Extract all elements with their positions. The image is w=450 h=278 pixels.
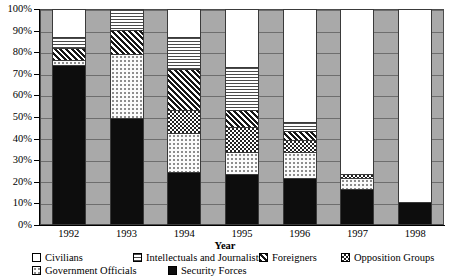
- legend-item-government[interactable]: Government Officials: [32, 265, 137, 276]
- y-tick-mark: [34, 225, 39, 226]
- legend-swatch-government-icon: [32, 266, 41, 275]
- legend-label: Intellectuals and Journalists: [146, 252, 263, 263]
- legend-item-civilians[interactable]: Civilians: [32, 252, 83, 263]
- bar-segment-government[interactable]: [111, 55, 143, 119]
- legend-item-security[interactable]: Security Forces: [168, 265, 247, 276]
- x-axis-line: [39, 225, 445, 226]
- bar-segment-civilians[interactable]: [226, 10, 258, 68]
- x-tick-label-1993: 1993: [97, 228, 157, 239]
- y-tick-mark: [34, 203, 39, 204]
- bar-segment-opposition[interactable]: [226, 128, 258, 154]
- bar-1996[interactable]: [283, 9, 317, 225]
- y-tick-mark: [34, 160, 39, 161]
- bar-segment-security[interactable]: [111, 119, 143, 224]
- legend-swatch-intellectuals-icon: [133, 253, 142, 262]
- bar-segment-government[interactable]: [226, 153, 258, 174]
- y-tick-mark: [34, 117, 39, 118]
- bar-segment-foreigners[interactable]: [284, 132, 316, 141]
- y-tick-label: 90%: [13, 26, 32, 36]
- bar-segment-civilians[interactable]: [341, 10, 373, 175]
- legend-label: Security Forces: [181, 265, 247, 276]
- bar-segment-security[interactable]: [341, 190, 373, 224]
- y-tick-mark: [34, 95, 39, 96]
- bar-1994[interactable]: [167, 9, 201, 225]
- x-tick-label-1996: 1996: [270, 228, 330, 239]
- bar-segment-civilians[interactable]: [284, 10, 316, 123]
- bar-segment-security[interactable]: [399, 203, 431, 224]
- legend-swatch-foreigners-icon: [259, 253, 268, 262]
- legend-row-secondary: Government OfficialsSecurity Forces: [0, 265, 450, 278]
- bar-segment-foreigners[interactable]: [226, 111, 258, 128]
- legend-swatch-security-icon: [168, 266, 177, 275]
- y-tick-label: 80%: [13, 47, 32, 57]
- x-tick-label-1992: 1992: [39, 228, 99, 239]
- legend-swatch-civilians-icon: [32, 253, 41, 262]
- y-tick-label: 20%: [13, 177, 32, 187]
- legend-item-foreigners[interactable]: Foreigners: [259, 252, 317, 263]
- bar-segment-foreigners[interactable]: [168, 70, 200, 111]
- bar-segment-government[interactable]: [284, 153, 316, 179]
- x-axis-title: Year: [0, 240, 450, 251]
- x-tick-label-1995: 1995: [212, 228, 272, 239]
- bar-segment-intellectuals[interactable]: [284, 123, 316, 132]
- y-tick-label: 0%: [18, 220, 32, 230]
- bar-segment-security[interactable]: [53, 66, 85, 224]
- bar-segment-government[interactable]: [53, 61, 85, 65]
- bar-segment-civilians[interactable]: [168, 10, 200, 38]
- bar-segment-intellectuals[interactable]: [168, 38, 200, 70]
- legend-row-primary: CiviliansIntellectuals and JournalistsFo…: [0, 252, 450, 265]
- bar-segment-intellectuals[interactable]: [226, 68, 258, 111]
- y-tick-mark: [34, 74, 39, 75]
- bar-segment-civilians[interactable]: [399, 10, 431, 203]
- bar-segment-intellectuals[interactable]: [53, 38, 85, 49]
- y-tick-mark: [34, 182, 39, 183]
- y-axis-labels: 0%10%20%30%40%50%60%70%80%90%100%: [0, 0, 38, 234]
- legend-label: Government Officials: [45, 265, 137, 276]
- bar-segment-opposition[interactable]: [168, 111, 200, 135]
- legend: CiviliansIntellectuals and JournalistsFo…: [0, 252, 450, 278]
- y-tick-label: 60%: [13, 90, 32, 100]
- y-tick-label: 70%: [13, 69, 32, 79]
- bar-segment-civilians[interactable]: [53, 10, 85, 38]
- legend-label: Opposition Groups: [354, 252, 434, 263]
- y-tick-mark: [34, 31, 39, 32]
- y-tick-mark: [34, 52, 39, 53]
- bar-segment-security[interactable]: [226, 175, 258, 224]
- x-tick-label-1994: 1994: [154, 228, 214, 239]
- y-tick-mark: [34, 139, 39, 140]
- bar-segment-government[interactable]: [168, 134, 200, 173]
- bar-segment-foreigners[interactable]: [53, 49, 85, 62]
- y-tick-label: 50%: [13, 112, 32, 122]
- bar-segment-foreigners[interactable]: [111, 31, 143, 55]
- y-tick-label: 10%: [13, 198, 32, 208]
- bar-segment-opposition[interactable]: [341, 175, 373, 179]
- bar-1997[interactable]: [340, 9, 374, 225]
- bar-1998[interactable]: [398, 9, 432, 225]
- bar-segment-intellectuals[interactable]: [111, 10, 143, 31]
- y-tick-label: 30%: [13, 155, 32, 165]
- legend-item-intellectuals[interactable]: Intellectuals and Journalists: [133, 252, 263, 263]
- bar-segment-security[interactable]: [168, 173, 200, 224]
- legend-label: Foreigners: [272, 252, 317, 263]
- legend-swatch-opposition-icon: [341, 253, 350, 262]
- bar-segment-opposition[interactable]: [284, 141, 316, 154]
- y-tick-label: 40%: [13, 134, 32, 144]
- bars-layer: [40, 9, 444, 225]
- bar-1995[interactable]: [225, 9, 259, 225]
- bar-1993[interactable]: [110, 9, 144, 225]
- bar-segment-government[interactable]: [341, 179, 373, 190]
- legend-item-opposition[interactable]: Opposition Groups: [341, 252, 434, 263]
- y-tick-mark: [34, 9, 39, 10]
- y-axis-line: [39, 9, 40, 226]
- bar-segment-security[interactable]: [284, 179, 316, 224]
- legend-label: Civilians: [45, 252, 83, 263]
- x-tick-label-1997: 1997: [327, 228, 387, 239]
- stacked-bar-chart: 0%10%20%30%40%50%60%70%80%90%100% 199219…: [0, 0, 450, 278]
- bar-1992[interactable]: [52, 9, 86, 225]
- y-tick-label: 100%: [8, 4, 33, 14]
- x-tick-label-1998: 1998: [385, 228, 445, 239]
